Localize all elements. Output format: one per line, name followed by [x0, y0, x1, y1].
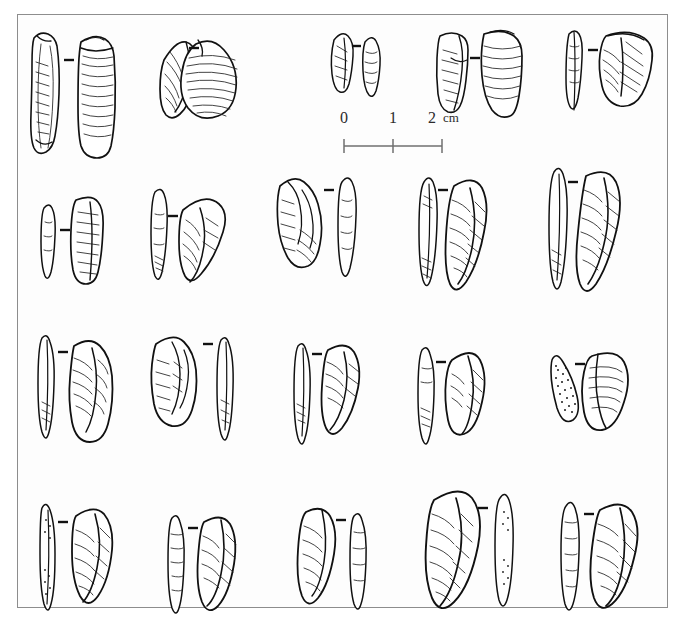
- artifact-r2-2: [151, 189, 225, 282]
- artifact-r4-5: [561, 502, 638, 610]
- scale-label-1: 1: [389, 108, 397, 128]
- artifact-r3-5: [551, 353, 628, 430]
- artifact-r3-2: [151, 337, 233, 440]
- artifact-r3-1: [38, 336, 113, 442]
- artifact-r4-1: [40, 504, 112, 610]
- lithic-plate: 0 1 2 cm: [0, 0, 694, 632]
- scale-unit-label: cm: [443, 110, 459, 126]
- artifact-r3-3: [294, 344, 359, 444]
- scale-bar-labels: 0 1 2 cm: [330, 108, 460, 132]
- artifact-r1-2: [160, 40, 237, 118]
- artifact-r1-1: [31, 33, 116, 158]
- artifact-r2-4: [419, 178, 487, 290]
- artifact-r2-3: [277, 178, 356, 276]
- scale-bar: 0 1 2 cm: [330, 108, 460, 158]
- artifact-r4-4: [426, 491, 514, 608]
- artifact-r2-5: [549, 168, 620, 291]
- artifact-r2-1: [41, 197, 103, 284]
- scale-label-2: 2: [428, 108, 436, 128]
- artifact-r4-3: [298, 509, 367, 609]
- artifact-r1-5: [566, 31, 652, 110]
- artifact-r1-4: [437, 30, 522, 117]
- artifact-drawing-canvas: [0, 0, 694, 632]
- artifact-r3-4: [418, 348, 485, 444]
- scale-label-0: 0: [340, 108, 348, 128]
- artifact-r1-3: [331, 34, 380, 97]
- artifact-r4-2: [168, 516, 236, 613]
